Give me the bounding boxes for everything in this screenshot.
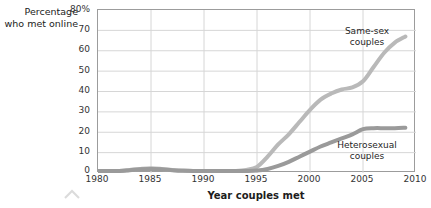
chevron-up-icon [63,188,81,200]
y-tick-label-50: 50 [56,65,90,75]
x-axis-title: Year couples met [97,190,415,201]
x-tick-label-2005: 2005 [342,174,382,184]
y-tick-label-40: 40 [56,85,90,95]
x-tick-label-2000: 2000 [289,174,329,184]
y-tick-label-70: 70 [56,24,90,34]
x-tick-label-1985: 1985 [130,174,170,184]
y-tick-label-60: 60 [56,44,90,54]
x-tick-label-2010: 2010 [395,174,431,184]
x-tick-label-1980: 1980 [77,174,117,184]
y-tick-label-10: 10 [56,146,90,156]
x-tick-label-1990: 1990 [183,174,223,184]
x-tick-label-1995: 1995 [236,174,276,184]
series-label-heterosexual: Heterosexual couples [330,140,404,162]
y-tick-label-80: 80% [56,4,90,14]
y-tick-label-30: 30 [56,105,90,115]
y-tick-label-20: 20 [56,126,90,136]
series-label-same-sex: Same-sex couples [336,26,398,48]
